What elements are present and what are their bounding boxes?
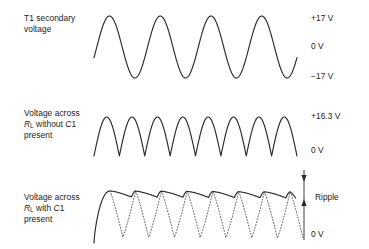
axis-label-rl-without-c1-zero: 0 V xyxy=(311,145,324,155)
rl-with-c1-dotted-underlay xyxy=(110,191,303,238)
ripple-label: Ripple xyxy=(315,192,339,202)
axis-label-rl-with-c1-zero: 0 V xyxy=(311,229,324,239)
axis-label-t1-secondary-zero: 0 V xyxy=(311,41,324,51)
panel-label-t1-secondary: T1 secondaryvoltage xyxy=(24,13,75,34)
panel-label-rl-with-c1: Voltage acrossRL with C1present xyxy=(24,192,80,225)
axis-label-t1-secondary-peak-negative: −17 V xyxy=(311,71,333,81)
t1-secondary-waveform xyxy=(94,16,297,78)
rl-without-c1-waveform xyxy=(94,117,297,156)
ripple-arrow xyxy=(301,170,306,240)
axis-label-t1-secondary-peak-positive: +17 V xyxy=(311,13,333,23)
axis-label-rl-without-c1-peak-positive: +16.3 V xyxy=(311,111,340,121)
waveform-figure: T1 secondaryvoltage Voltage acrossRL wit… xyxy=(0,0,369,249)
panel-label-rl-without-c1: Voltage acrossRL without C1present xyxy=(24,108,80,141)
